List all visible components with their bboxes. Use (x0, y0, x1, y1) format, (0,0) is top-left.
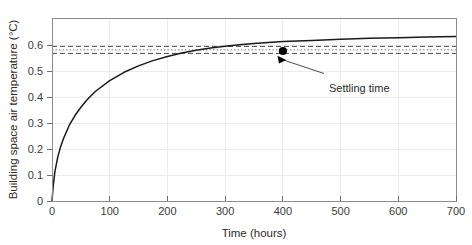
x-tick-label: 300 (216, 205, 234, 217)
settling-time-marker (279, 47, 287, 55)
temperature-response-plot: 0 100 200 300 400 500 600 700 0 0.1 0.2 … (0, 0, 472, 245)
y-tick-label: 0.5 (28, 65, 43, 77)
x-tick-label: 100 (101, 205, 119, 217)
y-tick-label: 0.2 (28, 143, 43, 155)
x-axis-title: Time (hours) (222, 227, 287, 239)
x-tick-label: 600 (389, 205, 407, 217)
y-tick-label: 0.4 (28, 91, 43, 103)
y-tick-labels: 0 0.1 0.2 0.3 0.4 0.5 0.6 (28, 39, 43, 207)
x-tick-label: 700 (447, 205, 465, 217)
y-axis-title: Building space air temperature (°C) (7, 19, 19, 199)
chart-figure: 0 100 200 300 400 500 600 700 0 0.1 0.2 … (0, 0, 472, 245)
y-tick-label: 0 (37, 195, 43, 207)
y-tick-label: 0.3 (28, 117, 43, 129)
settling-time-annotation-label: Settling time (329, 82, 390, 94)
y-tick-label: 0.1 (28, 169, 43, 181)
x-tick-label: 500 (331, 205, 349, 217)
x-tick-labels: 0 100 200 300 400 500 600 700 (49, 205, 465, 217)
y-tick-label: 0.6 (28, 39, 43, 51)
x-tick-label: 200 (158, 205, 176, 217)
x-tick-label: 0 (49, 205, 55, 217)
y-tick-marks (47, 45, 52, 201)
x-tick-label: 400 (274, 205, 292, 217)
